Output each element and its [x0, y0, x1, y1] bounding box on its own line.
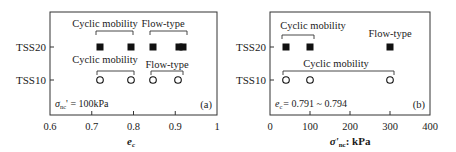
- ylabel-tss10-a: TSS10: [16, 74, 46, 86]
- marker-filled-square: [307, 44, 314, 51]
- panel-label-b: (b): [413, 99, 426, 111]
- bracket-label-cyclic-mobility-a-bottom: Cyclic mobility: [72, 54, 138, 65]
- marker-filled-square: [283, 44, 290, 51]
- ylabel-tss20-a: TSS20: [16, 41, 46, 53]
- bracket-label-cyclic-mobility-b-top: Cyclic mobility: [280, 20, 346, 31]
- marker-filled-square: [128, 44, 135, 51]
- bracket-label-cyclic-mobility-a-top: Cyclic mobility: [72, 18, 138, 29]
- xtick-label-b: 300: [382, 121, 398, 132]
- panel-label-a: (a): [200, 99, 212, 111]
- bracket-label-flow-type-a-bottom: Flow-type: [145, 59, 189, 70]
- xtick-label-a: 0.9: [169, 121, 182, 132]
- label-flow-type-b: Flow-type: [368, 28, 412, 39]
- ylabel-tss20-b: TSS20: [236, 41, 266, 53]
- xlabel-b: σ'nc: kPa: [330, 135, 371, 149]
- xtick-label-b: 100: [302, 121, 318, 132]
- xtick-label-a: 0.6: [43, 121, 56, 132]
- marker-open-circle: [97, 77, 104, 84]
- bracket-flow-type-a-top: [150, 31, 187, 35]
- marker-open-circle: [128, 77, 135, 84]
- annotation-sigma-a: σnc' = 100kPa: [55, 98, 109, 110]
- bracket-cyclic-mobility-a-top: [96, 31, 133, 35]
- xlabel-a: ec: [127, 135, 135, 149]
- annotation-ec-b: ec= 0.791 ~ 0.794: [275, 98, 347, 110]
- bracket-label-cyclic-mobility-b-bottom: Cyclic mobility: [303, 58, 369, 69]
- xtick-label-b: 200: [342, 121, 358, 132]
- xtick-label-b: 400: [422, 121, 438, 132]
- xtick-label-a: 0.8: [127, 121, 140, 132]
- xtick-label-b: 0: [267, 121, 272, 132]
- marker-open-circle: [175, 77, 182, 84]
- bracket-cyclic-mobility-b-bottom: [283, 71, 394, 75]
- marker-open-circle: [283, 77, 290, 84]
- bracket-label-flow-type-a-top: Flow-type: [141, 18, 185, 29]
- marker-filled-square: [387, 44, 394, 51]
- marker-filled-square: [150, 44, 157, 51]
- chart-a: TSS20 TSS10 0.6 0.7 0.8 0.9 1 ec Cyclic …: [16, 12, 220, 149]
- marker-open-circle: [307, 77, 314, 84]
- xtick-label-a: 1: [214, 121, 219, 132]
- bracket-cyclic-mobility-b-top: [282, 35, 314, 39]
- bracket-flow-type-a-bottom: [151, 71, 183, 75]
- marker-open-circle: [387, 77, 394, 84]
- marker-filled-square: [180, 44, 187, 51]
- marker-open-circle: [150, 77, 157, 84]
- xtick-label-a: 0.7: [85, 121, 98, 132]
- ylabel-tss10-b: TSS10: [236, 74, 266, 86]
- marker-filled-square: [97, 44, 104, 51]
- chart-b: TSS20 TSS10 0 100 200 300 400 σ'nc: kPa …: [236, 12, 438, 149]
- bracket-cyclic-mobility-a-bottom: [97, 71, 134, 75]
- figure: TSS20 TSS10 0.6 0.7 0.8 0.9 1 ec Cyclic …: [0, 0, 456, 152]
